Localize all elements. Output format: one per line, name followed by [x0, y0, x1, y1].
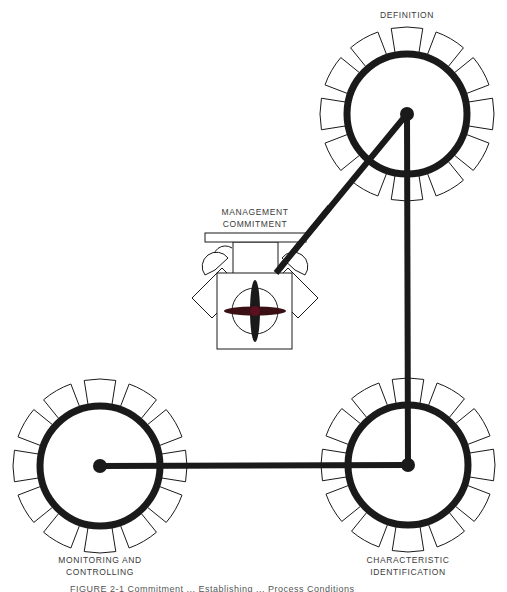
hub-characteristic — [401, 458, 415, 472]
gear-tooth — [469, 98, 494, 130]
shaft-characteristic-to-monitoring — [100, 465, 408, 466]
label-characteristic-line1: CHARACTERISTIC — [348, 554, 468, 566]
shaft-definition-to-characteristic — [407, 114, 408, 465]
label-definition-text: DEFINITION — [380, 10, 434, 20]
engine-top-bar — [205, 233, 306, 242]
gear-tooth — [84, 379, 116, 404]
label-management-line2: COMMITMENT — [200, 218, 310, 230]
gear-tooth — [84, 528, 116, 553]
engine-stem — [233, 242, 278, 274]
hub-monitoring — [93, 459, 107, 473]
figure-caption: FIGURE 2-1 Commitment ... Establishing .… — [70, 584, 450, 592]
process-gear-diagram — [0, 0, 507, 592]
gear-tooth — [13, 450, 38, 482]
label-management-line1: MANAGEMENT — [200, 206, 310, 218]
label-characteristic-identification: CHARACTERISTIC IDENTIFICATION — [348, 554, 468, 578]
hub-definition — [400, 107, 414, 121]
gear-tooth — [320, 98, 345, 130]
label-definition: DEFINITION — [357, 9, 457, 21]
gear-tooth — [391, 27, 423, 52]
label-management-commitment: MANAGEMENT COMMITMENT — [200, 206, 310, 230]
gear-tooth — [392, 527, 424, 552]
label-monitoring-controlling: MONITORING AND CONTROLLING — [40, 554, 160, 578]
label-monitoring-line2: CONTROLLING — [40, 566, 160, 578]
gear-tooth — [470, 449, 495, 481]
label-monitoring-line1: MONITORING AND — [40, 554, 160, 566]
management-commitment-engine — [192, 233, 318, 349]
label-characteristic-line2: IDENTIFICATION — [348, 566, 468, 578]
